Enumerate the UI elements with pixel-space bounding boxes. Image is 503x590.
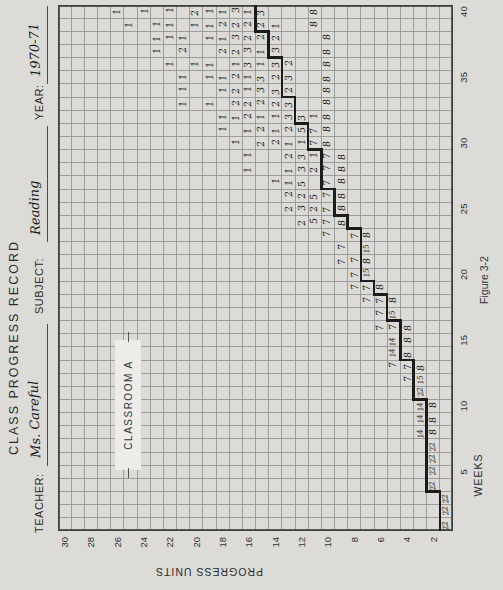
cell-count: 1 [164, 22, 174, 29]
cell-count: 2 [243, 113, 253, 120]
cell-count: 3 [271, 61, 281, 68]
week-tick-label: 40 [459, 0, 469, 24]
cell-count: 7 [402, 363, 412, 370]
cell-count: 2 [283, 206, 293, 213]
cell-count: 3 [271, 88, 281, 95]
cell-count: 1 [271, 127, 281, 134]
unit-tick-label: 14 [271, 537, 281, 559]
cell-count: 2 [255, 21, 265, 28]
cell-count: 1 [205, 100, 215, 107]
cell-count: 1 [243, 74, 253, 81]
year-underline [47, 6, 48, 84]
classroom-box-left-stub [128, 468, 129, 478]
cell-count: 2 [271, 100, 281, 107]
cell-count: 1 [271, 112, 281, 119]
cell-count: 1 [177, 35, 187, 42]
cell-count: 1 [217, 35, 227, 42]
cell-count: 1 [152, 35, 162, 42]
cell-count: 8 [321, 126, 331, 133]
cell-count: 7 [321, 191, 331, 198]
cell-count: 7 [349, 283, 359, 290]
cell-count: 2 [230, 87, 240, 94]
cell-count: 8 [336, 220, 346, 227]
week-tick-label: 20 [459, 263, 469, 287]
cell-count: 1 [230, 138, 240, 145]
page-title: CLASS PROGRESS RECORD [7, 195, 21, 500]
classroom-label: CLASSROOM A [123, 360, 134, 449]
week-tick-label: 25 [459, 197, 469, 221]
cell-count: 1 [283, 140, 293, 147]
cell-count: 2 [255, 141, 265, 148]
cell-count: 7 [309, 139, 319, 146]
cell-count: 2 [309, 205, 319, 212]
cell-count: 1 [217, 125, 227, 132]
cell-count: 2 [217, 47, 227, 54]
cell-count: 8 [336, 154, 346, 161]
unit-tick-label: 6 [376, 537, 386, 559]
cell-count: 14 [416, 429, 425, 439]
cell-count: 22 [429, 454, 438, 464]
cell-count: 7 [321, 230, 331, 237]
cell-count: 7 [321, 165, 331, 172]
cell-count: 7 [321, 179, 331, 186]
cell-count: 2 [177, 47, 187, 54]
cell-count: 7 [336, 258, 346, 265]
cell-count: 2 [271, 73, 281, 80]
cell-count: 8 [321, 141, 331, 148]
cell-count: 8 [374, 283, 384, 290]
unit-tick-label: 18 [218, 537, 228, 559]
teacher-underline [47, 324, 48, 466]
cell-count: 2 [271, 139, 281, 146]
cell-count: 3 [230, 7, 240, 14]
cell-count: 8 [321, 48, 331, 55]
cell-count: 7 [374, 325, 384, 332]
cell-count: 2 [271, 34, 281, 41]
cell-count: 1 [255, 48, 265, 55]
unit-tick-label: 26 [113, 537, 123, 559]
cell-count: 8 [428, 401, 438, 408]
cell-count: 2 [296, 192, 306, 199]
teacher-label: TEACHER: [33, 473, 45, 533]
unit-tick-label: 22 [165, 537, 175, 559]
unit-tick-label: 10 [323, 537, 333, 559]
cell-count: 3 [243, 47, 253, 54]
cell-count: 7 [321, 218, 331, 225]
cell-count: 1 [152, 20, 162, 27]
cell-count: 1 [283, 179, 293, 186]
cell-count: 1 [164, 34, 174, 41]
cell-count: 1 [217, 9, 227, 16]
cell-count: 1 [255, 60, 265, 67]
cell-count: 8 [428, 416, 438, 423]
cell-count: 1 [139, 7, 149, 14]
cell-count: 8 [362, 258, 372, 265]
cell-count: 2 [243, 101, 253, 108]
cell-count: 2 [230, 49, 240, 56]
cell-count: 1 [255, 114, 265, 121]
cell-count: 2 [309, 166, 319, 173]
cell-count: 1 [177, 101, 187, 108]
week-tick-label: 5 [459, 460, 469, 484]
cell-count: 3 [283, 101, 293, 108]
cell-count: 14 [388, 337, 397, 347]
cell-count: 1 [177, 74, 187, 81]
rotated-chart-figure: CLASS PROGRESS RECORD TEACHER: Ms. Caref… [0, 0, 503, 590]
unit-tick-label: 24 [139, 537, 149, 559]
cell-count: 2 [190, 9, 200, 16]
units-axis-title: PROGRESS UNITS [149, 566, 269, 578]
cell-count: 2 [243, 35, 253, 42]
cell-count: 3 [296, 165, 306, 172]
unit-tick-label: 4 [402, 537, 412, 559]
cell-count: 8 [402, 336, 412, 343]
year-value-handwriting: 1970-71 [26, 23, 43, 78]
cell-count: 7 [349, 233, 359, 240]
cell-count: 1 [230, 61, 240, 68]
cell-count: 1 [217, 113, 227, 120]
cell-count: 22 [429, 442, 438, 452]
cell-count: 2 [255, 126, 265, 133]
cell-count: 1 [205, 7, 215, 14]
cell-count: 3 [296, 204, 306, 211]
cell-count: 8 [428, 428, 438, 435]
cell-count: 3 [283, 74, 293, 81]
cell-count: 7 [321, 206, 331, 213]
cell-count: 7 [309, 127, 319, 134]
